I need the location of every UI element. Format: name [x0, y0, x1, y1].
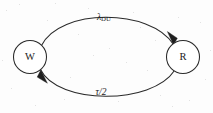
tau-symbol: τ/2	[96, 87, 107, 97]
diagram-canvas: W R λDU τ/2	[0, 0, 213, 113]
node-w-label: W	[25, 52, 35, 63]
node-r-label: R	[179, 52, 186, 63]
edge-label-w-to-r: λDU	[97, 13, 111, 23]
edge-label-r-to-w: τ/2	[96, 88, 107, 98]
edge-r-to-w	[41, 70, 175, 97]
lambda-subscript: DU	[101, 15, 111, 22]
